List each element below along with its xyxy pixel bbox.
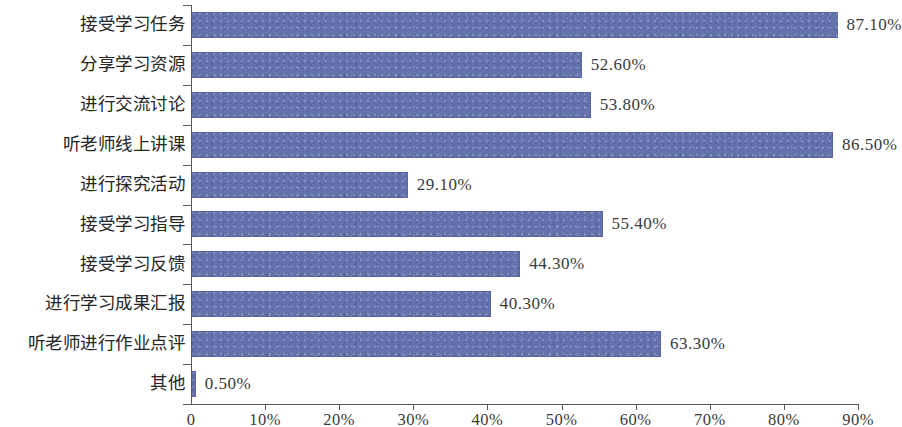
category-label: 进行学习成果汇报 (11, 295, 191, 313)
bar-value-label: 0.50% (205, 374, 251, 394)
bar-value-label: 52.60% (591, 55, 646, 75)
y-axis-tick (183, 5, 191, 6)
bar (192, 371, 196, 397)
bar-row: 听老师进行作业点评63.30% (0, 324, 898, 364)
bar (192, 211, 603, 237)
y-axis-tick (183, 404, 191, 405)
x-axis-ticks: 010%20%30%40%50%60%70%80%90% (191, 404, 858, 427)
bar-row: 分享学习资源52.60% (0, 45, 898, 85)
y-axis-tick (183, 165, 191, 166)
bar-row: 接受学习指导55.40% (0, 205, 898, 245)
bar (192, 52, 582, 78)
x-axis-tick-label: 20% (323, 410, 355, 427)
bar-and-value: 44.30% (192, 251, 585, 277)
bar-and-value: 55.40% (192, 211, 667, 237)
bar-and-value: 63.30% (192, 331, 726, 357)
bar-value-label: 53.80% (600, 95, 655, 115)
bar-row: 进行探究活动29.10% (0, 165, 898, 205)
category-label: 接受学习指导 (11, 216, 191, 234)
bar-and-value: 86.50% (192, 132, 897, 158)
bar-value-label: 63.30% (670, 334, 725, 354)
x-axis-tick-label: 60% (620, 410, 652, 427)
x-axis-tick-label: 40% (472, 410, 504, 427)
bar (192, 92, 591, 118)
category-label: 接受学习任务 (11, 16, 191, 34)
x-axis-tick-label: 90% (842, 410, 874, 427)
bar-and-value: 87.10% (192, 12, 902, 38)
bar (192, 132, 833, 158)
bar-and-value: 53.80% (192, 92, 655, 118)
bar (192, 291, 491, 317)
bar-row: 听老师线上讲课86.50% (0, 125, 898, 165)
category-label: 接受学习反馈 (11, 256, 191, 274)
y-axis-tick (183, 284, 191, 285)
bar (192, 172, 408, 198)
bar-value-label: 44.30% (529, 254, 584, 274)
y-axis-tick (183, 205, 191, 206)
y-axis-tick (183, 125, 191, 126)
y-axis-tick (183, 244, 191, 245)
bar-value-label: 55.40% (612, 214, 667, 234)
category-label: 分享学习资源 (11, 56, 191, 74)
bar-value-label: 29.10% (417, 175, 472, 195)
category-label: 进行探究活动 (11, 176, 191, 194)
bar-value-label: 40.30% (500, 294, 555, 314)
bar-and-value: 52.60% (192, 52, 646, 78)
y-axis-tick (183, 85, 191, 86)
x-axis-tick-label: 0 (187, 410, 196, 427)
y-axis-tick (183, 364, 191, 365)
bar-row: 接受学习反馈44.30% (0, 244, 898, 284)
bar-row: 接受学习任务87.10% (0, 5, 898, 45)
bar-and-value: 40.30% (192, 291, 555, 317)
x-axis-tick-label: 50% (546, 410, 578, 427)
bar-rows: 接受学习任务87.10%分享学习资源52.60%进行交流讨论53.80%听老师线… (0, 5, 898, 404)
bar-value-label: 86.50% (842, 135, 897, 155)
bar-value-label: 87.10% (847, 15, 902, 35)
x-axis-tick-label: 10% (249, 410, 281, 427)
x-axis-tick-label: 30% (397, 410, 429, 427)
category-label: 听老师进行作业点评 (11, 335, 191, 353)
bar (192, 331, 661, 357)
category-label: 听老师线上讲课 (11, 136, 191, 154)
x-axis-tick-label: 80% (768, 410, 800, 427)
y-axis-tick (183, 324, 191, 325)
bar (192, 251, 520, 277)
category-label: 进行交流讨论 (11, 96, 191, 114)
bar (192, 12, 838, 38)
bar-row: 进行学习成果汇报40.30% (0, 284, 898, 324)
y-axis-tick (183, 45, 191, 46)
bar-row: 进行交流讨论53.80% (0, 85, 898, 125)
bar-and-value: 29.10% (192, 172, 472, 198)
bar-row: 其他0.50% (0, 364, 898, 404)
x-axis-tick-label: 70% (694, 410, 726, 427)
bar-and-value: 0.50% (192, 371, 251, 397)
category-label: 其他 (11, 375, 191, 393)
